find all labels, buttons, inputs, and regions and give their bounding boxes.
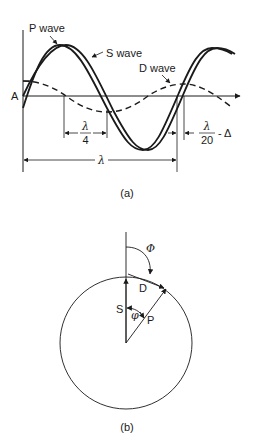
wavelength-label: λ — [97, 154, 105, 167]
quarter-numerator: λ — [81, 120, 89, 133]
panel-b: Φ D S φ P (b) — [60, 232, 192, 433]
d-wave-pointer — [162, 75, 170, 83]
p-label: P — [147, 314, 154, 326]
big-phi-label: Φ — [146, 242, 155, 255]
p-wave-pointer — [50, 36, 57, 44]
quarter-denominator: 4 — [82, 134, 88, 146]
shift-suffix: - Δ — [218, 127, 232, 139]
s-label: S — [116, 303, 123, 315]
d-wave-label: D wave — [139, 62, 176, 74]
wave-phase-diagram: P wave S wave D wave A λ 4 λ λ 20 - Δ (a… — [0, 0, 253, 448]
shift-numerator: λ — [203, 120, 211, 133]
p-wave-label: P wave — [29, 22, 65, 34]
caption-a: (a) — [120, 187, 133, 199]
d-label: D — [139, 282, 147, 294]
s-wave-pointer — [92, 52, 103, 57]
caption-b: (b) — [120, 421, 133, 433]
s-wave-label: S wave — [106, 47, 142, 59]
small-phi-label: φ — [131, 309, 139, 322]
small-phi-arc-end — [140, 312, 144, 318]
panel-a: P wave S wave D wave A λ 4 λ λ 20 - Δ (a… — [11, 22, 240, 199]
shift-denominator: 20 — [201, 134, 213, 146]
amplitude-axis-label: A — [11, 90, 19, 102]
